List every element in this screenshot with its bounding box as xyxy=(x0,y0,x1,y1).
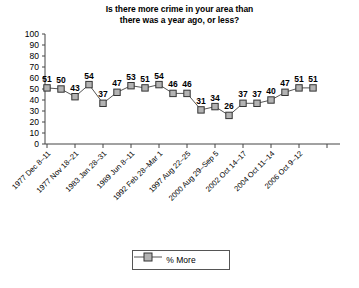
x-axis-tick-label: 1992 Feb 28–Mar 1 xyxy=(111,149,164,202)
data-point-marker xyxy=(58,86,64,92)
data-point-marker xyxy=(198,107,204,113)
data-point-marker xyxy=(128,83,134,89)
data-point-marker xyxy=(296,85,302,91)
data-point-marker xyxy=(170,90,176,96)
data-point-label: 37 xyxy=(252,89,262,99)
legend-label-more: % More xyxy=(166,255,195,265)
legend-marker-icon xyxy=(133,251,163,263)
line-chart-plot: 10090807060504030201001977 Dec 8–111977 … xyxy=(0,0,359,288)
data-point-label: 40 xyxy=(266,86,276,96)
data-point-label: 51 xyxy=(294,74,304,84)
data-point-label: 46 xyxy=(168,79,178,89)
data-point-marker xyxy=(142,85,148,91)
y-axis-tick-label: 60 xyxy=(30,73,40,83)
data-point-label: 53 xyxy=(126,72,136,82)
y-axis-tick-label: 40 xyxy=(30,95,40,105)
data-point-marker xyxy=(44,85,50,91)
data-point-label: 51 xyxy=(42,74,52,84)
data-point-marker xyxy=(100,100,106,106)
data-point-label: 37 xyxy=(98,89,108,99)
data-point-label: 26 xyxy=(224,101,234,111)
data-point-marker xyxy=(282,89,288,95)
data-point-label: 54 xyxy=(84,71,94,81)
data-point-label: 43 xyxy=(70,83,80,93)
y-axis-tick-label: 50 xyxy=(30,84,40,94)
y-axis-tick-label: 30 xyxy=(30,106,40,116)
data-point-label: 47 xyxy=(280,78,290,88)
y-axis-tick-label: 90 xyxy=(30,40,40,50)
y-axis-tick-label: 0 xyxy=(34,139,39,149)
chart-legend: % More xyxy=(132,250,230,270)
y-axis-tick-label: 20 xyxy=(30,117,40,127)
data-point-marker xyxy=(310,85,316,91)
data-point-marker xyxy=(240,100,246,106)
data-point-marker xyxy=(254,100,260,106)
data-point-label: 37 xyxy=(238,89,248,99)
data-point-label: 51 xyxy=(308,74,318,84)
data-point-label: 51 xyxy=(140,74,150,84)
data-point-marker xyxy=(268,97,274,103)
data-point-marker xyxy=(184,90,190,96)
y-axis-tick-label: 70 xyxy=(30,62,40,72)
data-point-label: 47 xyxy=(112,78,122,88)
data-point-label: 54 xyxy=(154,71,164,81)
data-point-marker xyxy=(86,81,92,87)
data-point-label: 46 xyxy=(182,79,192,89)
y-axis-tick-label: 80 xyxy=(30,51,40,61)
data-point-marker xyxy=(226,112,232,118)
data-point-marker xyxy=(156,81,162,87)
data-point-marker xyxy=(72,94,78,100)
data-point-label: 31 xyxy=(196,96,206,106)
y-axis-tick-label: 100 xyxy=(25,29,39,39)
data-point-marker xyxy=(114,89,120,95)
data-point-label: 50 xyxy=(56,75,66,85)
x-axis-tick-label: 2000 Aug 29–Sep 5 xyxy=(167,149,221,203)
y-axis-tick-label: 10 xyxy=(30,128,40,138)
data-point-label: 34 xyxy=(210,93,220,103)
chart-container: Is there more crime in your area than th… xyxy=(0,0,359,288)
data-point-marker xyxy=(212,103,218,109)
